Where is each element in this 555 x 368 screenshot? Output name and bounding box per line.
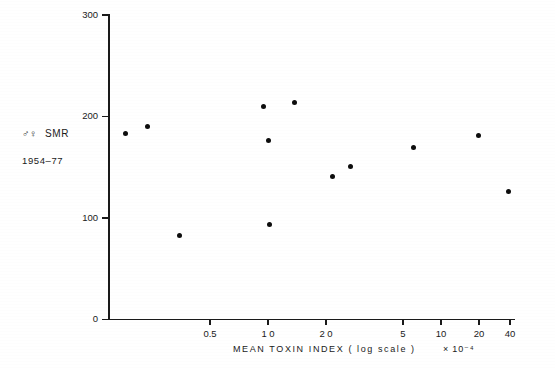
x-axis-title: MEAN TOXIN INDEX ( log scale ) <box>233 344 416 354</box>
x-tick-label-5: 5 <box>383 328 423 339</box>
x-tick-10 <box>440 319 442 325</box>
x-tick-5 <box>402 319 404 325</box>
data-point <box>267 222 272 227</box>
data-point <box>476 133 481 138</box>
y-tick-label-0: 0 <box>68 313 98 324</box>
data-point <box>330 174 335 179</box>
y-tick-label-300: 300 <box>68 9 98 20</box>
x-axis-line <box>108 319 515 321</box>
data-point <box>411 145 416 150</box>
x-axis-exponent-label: × 10⁻⁴ <box>443 344 474 354</box>
data-point <box>506 189 511 194</box>
y-axis-subtitle: 1954–77 <box>22 155 63 166</box>
y-axis-title: SMR <box>45 128 69 139</box>
data-point <box>266 138 271 143</box>
x-tick-20 <box>478 319 480 325</box>
x-tick-2-0 <box>325 319 327 325</box>
data-point <box>177 233 182 238</box>
x-tick-label-0-5: 0.5 <box>190 328 230 339</box>
x-tick-label-40: 40 <box>490 328 530 339</box>
y-tick-100 <box>102 217 108 219</box>
x-tick-1-0 <box>267 319 269 325</box>
x-tick-40 <box>509 319 511 325</box>
x-tick-label-10: 10 <box>421 328 461 339</box>
x-tick-label-1-0: 1 0 <box>248 328 288 339</box>
y-tick-300 <box>102 14 108 16</box>
y-axis-line <box>108 14 110 320</box>
y-tick-200 <box>102 116 108 118</box>
data-point <box>348 164 353 169</box>
data-point <box>292 100 297 105</box>
x-tick-0-5 <box>209 319 211 325</box>
sex-symbols-icon: ♂♀ <box>22 128 37 139</box>
data-point <box>145 124 150 129</box>
x-tick-label-2-0: 2 0 <box>306 328 346 339</box>
y-tick-0 <box>102 319 108 321</box>
data-point <box>261 104 266 109</box>
y-tick-label-100: 100 <box>68 212 98 223</box>
y-tick-label-200: 200 <box>68 110 98 121</box>
scatter-chart: 300 200 100 0 0.5 1 0 2 0 5 10 20 40 ♂♀ … <box>0 0 555 368</box>
data-point <box>123 131 128 136</box>
